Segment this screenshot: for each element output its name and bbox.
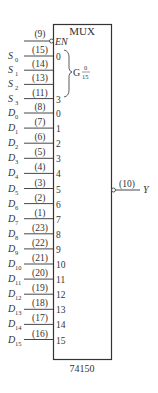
input-subscript: 5 bbox=[15, 189, 18, 196]
input-inner-label: 5 bbox=[56, 185, 61, 195]
input-inner-label: 3 bbox=[56, 154, 61, 164]
input-pin: (7) bbox=[34, 117, 45, 128]
input-pin: (22) bbox=[32, 238, 48, 249]
output-label: Y bbox=[143, 184, 150, 195]
enable-pin: (9) bbox=[34, 29, 45, 40]
select-group-label: G bbox=[73, 67, 80, 78]
select-group-brace bbox=[64, 50, 72, 97]
input-pin: (18) bbox=[32, 298, 48, 309]
input-pin: (8) bbox=[34, 102, 45, 113]
input-inner-label: 4 bbox=[56, 169, 61, 179]
input-subscript: 1 bbox=[15, 128, 18, 135]
enable-inversion-bubble bbox=[50, 39, 54, 43]
input-subscript: 9 bbox=[15, 249, 18, 256]
input-inner-label: 8 bbox=[56, 230, 61, 240]
input-subscript: 15 bbox=[15, 340, 22, 347]
input-name: S bbox=[8, 93, 13, 104]
input-pin: (5) bbox=[34, 147, 45, 158]
input-subscript: 13 bbox=[15, 309, 22, 316]
part-number: 74150 bbox=[70, 363, 95, 374]
select-group-range-bottom: 15 bbox=[82, 73, 89, 80]
input-pin: (4) bbox=[34, 162, 45, 173]
enable-label: EN bbox=[54, 36, 69, 47]
input-subscript: 1 bbox=[15, 70, 18, 77]
input-inner-label: 0 bbox=[56, 52, 61, 62]
input-inner-label: 15 bbox=[56, 336, 66, 346]
input-subscript: 3 bbox=[15, 99, 18, 106]
input-pin: (14) bbox=[32, 59, 48, 70]
input-subscript: 6 bbox=[15, 204, 19, 211]
input-inner-label: 14 bbox=[56, 320, 66, 330]
input-pin: (2) bbox=[34, 193, 45, 204]
input-inner-label: 13 bbox=[56, 305, 66, 315]
input-inner-label: 11 bbox=[56, 275, 65, 285]
input-subscript: 2 bbox=[15, 143, 18, 150]
input-inner-label: 3 bbox=[56, 95, 61, 105]
input-inner-label: 7 bbox=[56, 215, 61, 225]
input-subscript: 12 bbox=[15, 294, 22, 301]
chip-title: MUX bbox=[69, 25, 95, 37]
input-inner-label: 12 bbox=[56, 290, 66, 300]
mux-74150-diagram: MUX (9) EN G 0 15 S0(15)0S1(14)S2(13)S3(… bbox=[0, 0, 158, 393]
input-subscript: 0 bbox=[15, 56, 18, 63]
input-subscript: 2 bbox=[15, 84, 18, 91]
input-name: S bbox=[8, 50, 13, 61]
input-pin: (13) bbox=[32, 73, 48, 84]
input-inner-label: 0 bbox=[56, 109, 61, 119]
input-pin: (21) bbox=[32, 253, 48, 264]
select-group-range-top: 0 bbox=[84, 64, 87, 71]
input-name: S bbox=[8, 64, 13, 75]
input-pin: (23) bbox=[32, 223, 48, 234]
input-pin: (11) bbox=[32, 88, 47, 99]
input-inner-label: 9 bbox=[56, 245, 61, 255]
input-pin: (20) bbox=[32, 268, 48, 279]
input-subscript: 0 bbox=[15, 113, 18, 120]
input-subscript: 8 bbox=[15, 234, 18, 241]
input-pin: (19) bbox=[32, 283, 48, 294]
input-inner-label: 6 bbox=[56, 200, 61, 210]
input-pin: (3) bbox=[34, 178, 45, 189]
input-inner-label: 10 bbox=[56, 260, 66, 270]
input-pin: (1) bbox=[34, 208, 45, 219]
input-pin: (16) bbox=[32, 329, 48, 340]
input-subscript: 7 bbox=[15, 219, 19, 226]
output-inversion-bubble bbox=[112, 188, 116, 192]
input-name: S bbox=[8, 78, 13, 89]
input-pin: (15) bbox=[32, 45, 48, 56]
input-subscript: 3 bbox=[15, 158, 18, 165]
input-subscript: 14 bbox=[15, 324, 22, 331]
output-pin: (10) bbox=[119, 179, 135, 190]
input-inner-label: 2 bbox=[56, 139, 61, 149]
input-subscript: 4 bbox=[15, 173, 19, 180]
input-subscript: 11 bbox=[15, 279, 21, 286]
input-pin: (6) bbox=[34, 132, 45, 143]
input-pin: (17) bbox=[32, 313, 48, 324]
input-subscript: 10 bbox=[15, 264, 22, 271]
input-inner-label: 1 bbox=[56, 124, 61, 134]
